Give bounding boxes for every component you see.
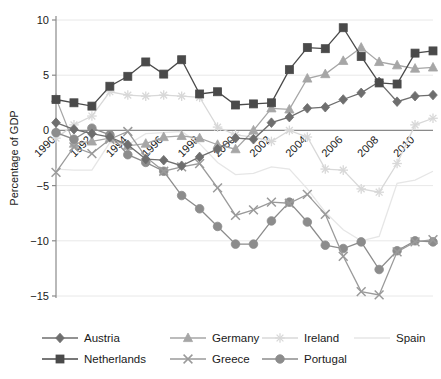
marker-diamond [52,118,61,128]
marker-circle [303,218,312,227]
marker-square [357,52,365,60]
legend-entry-germany[interactable]: Germany [170,332,260,344]
marker-circle [321,241,330,250]
marker-star [410,120,420,130]
marker-x [303,190,312,199]
marker-square [142,58,150,66]
marker-x [231,211,240,220]
marker-square [88,102,96,110]
marker-star [87,111,97,121]
marker-square [196,90,204,98]
marker-square [70,99,78,107]
marker-star [428,113,438,123]
marker-diamond [56,333,65,343]
marker-square [393,80,401,88]
marker-diamond [70,124,79,134]
marker-x [88,149,97,158]
marker-circle [249,240,258,249]
gdp-percentage-line-chart: 1050−5−10−15Percentage of GDP19901992199… [0,0,441,379]
y-tick-label--15: −15 [30,290,49,302]
marker-star [356,184,366,194]
legend-entry-greece[interactable]: Greece [170,353,250,365]
legend-entry-austria[interactable]: Austria [42,332,120,344]
marker-square [178,56,186,64]
marker-triangle [321,69,330,78]
marker-square [52,95,60,103]
x-tick-label-2008: 2008 [355,133,381,159]
marker-square [303,44,311,52]
marker-square [232,101,240,109]
marker-square [106,82,114,90]
legend-label-austria: Austria [84,332,120,344]
marker-diamond [357,88,366,98]
marker-triangle [357,43,366,52]
marker-triangle [375,57,384,66]
legend-entry-netherlands[interactable]: Netherlands [42,353,146,365]
marker-square [249,100,257,108]
marker-circle [177,191,186,200]
marker-x [249,205,258,214]
marker-star [275,333,285,343]
marker-square [429,47,437,55]
legend-label-netherlands: Netherlands [84,353,146,365]
marker-square [214,88,222,96]
legend-entry-portugal[interactable]: Portugal [262,353,347,365]
marker-diamond [159,155,168,165]
y-tick-label--10: −10 [30,235,49,247]
marker-star [123,90,133,100]
legend-label-ireland: Ireland [304,332,339,344]
marker-star [392,159,402,169]
y-tick-label--5: −5 [36,180,49,192]
marker-circle [276,355,285,364]
marker-star [303,132,313,142]
marker-star [285,126,295,136]
legend-label-portugal: Portugal [304,353,347,365]
marker-diamond [411,91,420,101]
marker-triangle [339,56,348,65]
marker-square [411,49,419,57]
marker-circle [52,128,61,137]
marker-circle [195,204,204,213]
marker-square [285,66,293,74]
marker-square [160,70,168,78]
y-axis-title: Percentage of GDP [8,110,20,205]
legend-entry-spain[interactable]: Spain [354,332,425,344]
marker-diamond [339,95,348,105]
marker-star [177,91,187,101]
marker-diamond [303,104,312,114]
marker-square [56,355,64,363]
marker-square [339,24,347,32]
marker-x [213,183,222,192]
marker-circle [357,238,366,247]
marker-star [159,90,169,100]
legend-label-spain: Spain [396,332,425,344]
marker-circle [124,150,133,159]
marker-star [141,91,151,101]
y-tick-label-10: 10 [37,14,49,26]
marker-star [267,137,277,147]
marker-x [123,127,132,136]
legend-label-germany: Germany [212,332,260,344]
y-tick-label-5: 5 [43,69,49,81]
marker-diamond [285,112,294,122]
marker-circle [70,135,79,144]
x-tick-label-2010: 2010 [391,133,417,159]
marker-square [321,45,329,53]
legend-entry-ireland[interactable]: Ireland [262,332,339,344]
marker-circle [213,222,222,231]
marker-square [124,72,132,80]
marker-circle [267,217,276,226]
x-tick-label-1990: 1990 [32,133,58,159]
legend-label-greece: Greece [212,353,250,365]
marker-diamond [429,90,438,100]
series-netherlands [52,24,437,110]
marker-square [267,99,275,107]
marker-star [213,122,223,132]
marker-star [374,187,384,197]
marker-star [320,164,330,174]
x-tick-label-2006: 2006 [319,133,345,159]
marker-square [375,79,383,87]
marker-circle [231,240,240,249]
marker-diamond [321,102,330,112]
marker-star [338,165,348,175]
